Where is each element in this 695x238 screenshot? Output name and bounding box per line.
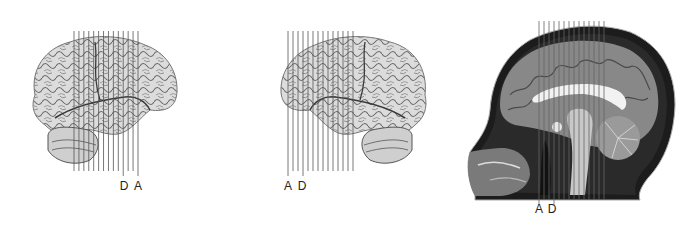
slice-label-a: A — [535, 202, 543, 216]
cerebellum-shape — [48, 127, 98, 163]
slice-label-d: D — [298, 179, 307, 193]
slice-label-d: D — [548, 202, 557, 216]
slice-label-d: D — [120, 179, 129, 193]
cerebellum-shape — [362, 127, 412, 163]
panel-brain-lateral-left: D A — [0, 0, 230, 238]
mri-sagittal-head: A D — [460, 0, 695, 238]
brain-lateral-right-facing: D A — [0, 0, 230, 238]
slice-label-a: A — [284, 179, 292, 193]
cerebrum-shape — [33, 37, 177, 136]
panel-sagittal-mri: A D — [460, 0, 695, 238]
brain-lateral-left-facing: A D — [230, 0, 460, 238]
panel-brain-lateral-right: A D — [230, 0, 460, 238]
slice-label-a: A — [134, 179, 142, 193]
